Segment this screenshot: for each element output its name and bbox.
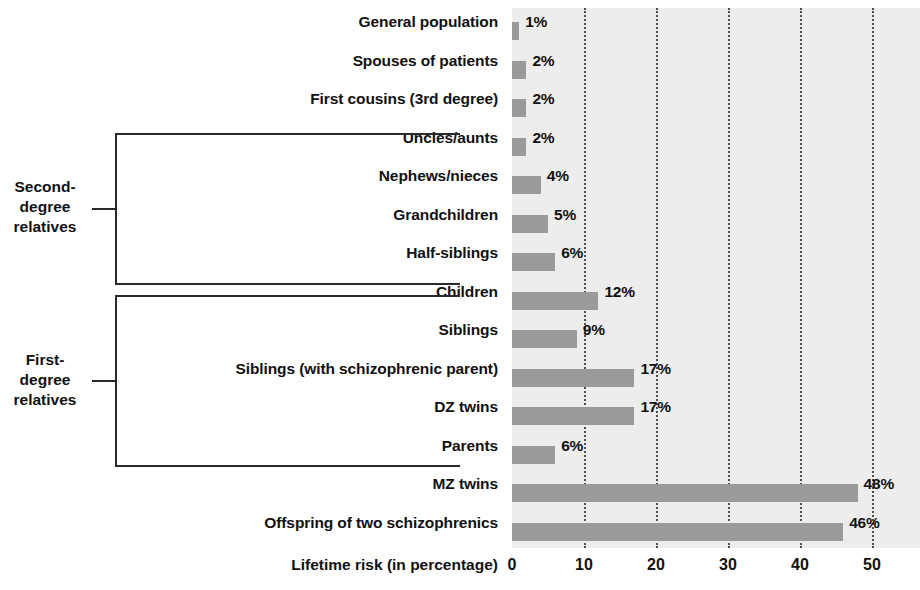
bar <box>512 292 598 310</box>
gridline-30 <box>728 8 730 548</box>
bracket-second-degree <box>115 133 460 285</box>
value-label: 2% <box>532 90 554 108</box>
value-label: 17% <box>640 398 670 416</box>
value-label: 1% <box>525 13 547 31</box>
bracket-label-line: degree <box>0 197 90 217</box>
bracket-top-line <box>115 295 460 297</box>
value-label: 4% <box>547 167 569 185</box>
bar <box>512 407 634 425</box>
value-label: 6% <box>561 244 583 262</box>
gridline-40 <box>800 8 802 548</box>
value-label: 17% <box>640 360 670 378</box>
value-label: 5% <box>554 206 576 224</box>
bracket-top-line <box>115 133 460 135</box>
bar <box>512 61 526 79</box>
bracket-label-line: relatives <box>0 217 90 237</box>
bracket-label-line: degree <box>0 370 90 390</box>
bracket-label-line: relatives <box>0 390 90 410</box>
bracket-connector-stub <box>92 208 115 210</box>
bar <box>512 215 548 233</box>
bar <box>512 99 526 117</box>
bar <box>512 484 858 502</box>
plot-area <box>512 8 920 548</box>
bracket-vertical-line <box>115 133 117 285</box>
x-axis-tick: 40 <box>780 556 820 574</box>
value-label: 6% <box>561 437 583 455</box>
x-axis-tick: 50 <box>852 556 892 574</box>
gridline-10 <box>584 8 586 548</box>
bar <box>512 523 843 541</box>
bar <box>512 330 577 348</box>
value-label: 9% <box>583 321 605 339</box>
category-label: Offspring of two schizophrenics <box>0 514 505 532</box>
bracket-first-degree-label: First-degreerelatives <box>0 350 90 410</box>
value-label: 48% <box>864 475 894 493</box>
bracket-connector-stub <box>92 380 115 382</box>
bar <box>512 138 526 156</box>
x-axis-title: Lifetime risk (in percentage) <box>0 556 505 574</box>
bracket-first-degree <box>115 295 460 467</box>
value-label: 12% <box>604 283 634 301</box>
value-label: 46% <box>849 514 879 532</box>
bracket-second-degree-label: Second-degreerelatives <box>0 177 90 237</box>
x-axis-tick: 30 <box>708 556 748 574</box>
x-axis-tick: 20 <box>636 556 676 574</box>
value-label: 2% <box>532 52 554 70</box>
bar <box>512 176 541 194</box>
x-axis-tick: 10 <box>564 556 604 574</box>
value-label: 2% <box>532 129 554 147</box>
schizophrenia-risk-chart: General populationSpouses of patientsFir… <box>0 0 920 590</box>
bar <box>512 253 555 271</box>
category-label: MZ twins <box>0 475 505 493</box>
bracket-label-line: First- <box>0 350 90 370</box>
bracket-bottom-line <box>115 465 460 467</box>
bracket-bottom-line <box>115 283 460 285</box>
category-label: Spouses of patients <box>0 52 505 70</box>
category-label: First cousins (3rd degree) <box>0 90 505 108</box>
gridline-50 <box>872 8 874 548</box>
bar <box>512 369 634 387</box>
category-label: General population <box>0 13 505 31</box>
gridline-20 <box>656 8 658 548</box>
bar <box>512 446 555 464</box>
bar <box>512 22 519 40</box>
bracket-vertical-line <box>115 295 117 467</box>
bracket-label-line: Second- <box>0 177 90 197</box>
